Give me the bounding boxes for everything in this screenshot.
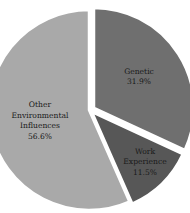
slice-label-genetic: Genetic31.9%: [124, 67, 154, 87]
pie-chart: Genetic31.9%WorkExperience11.5%OtherEnvi…: [0, 0, 190, 213]
